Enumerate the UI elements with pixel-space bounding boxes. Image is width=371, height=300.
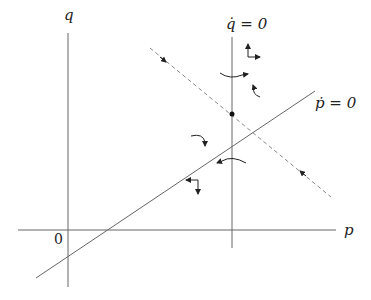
p-dot-nullcline xyxy=(36,91,315,278)
q-dot-nullcline-label: q̇ = 0 xyxy=(226,15,267,33)
saddle-arrow-upper-icon xyxy=(160,57,166,62)
crossing-arrow-top-icon xyxy=(220,73,248,77)
phase-diagram: q p 0 q̇ = 0 ṗ = 0 xyxy=(0,0,371,300)
equilibrium-point xyxy=(230,112,235,117)
crossing-arrow-right-icon xyxy=(253,85,260,97)
saddle-arrow-lower-icon xyxy=(300,171,306,176)
direction-left-down-icon xyxy=(186,180,198,194)
q-axis-label: q xyxy=(64,6,74,24)
crossing-arrow-left-icon xyxy=(191,135,205,146)
p-axis-label: p xyxy=(344,221,354,239)
origin-label: 0 xyxy=(54,231,63,247)
diagram-canvas xyxy=(0,0,371,300)
p-dot-nullcline-label: ṗ = 0 xyxy=(315,94,356,112)
direction-up-right-icon xyxy=(248,44,260,57)
